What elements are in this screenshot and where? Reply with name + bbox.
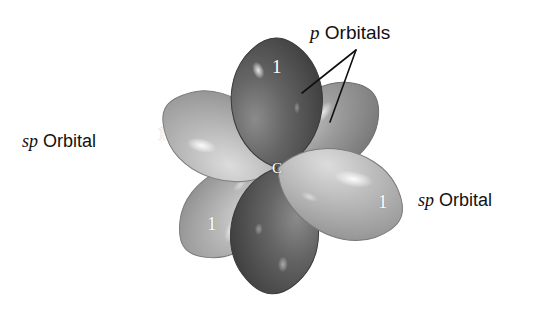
- sp-orbital-right-rest: Orbital: [434, 190, 492, 210]
- orbital-illustration: [0, 0, 539, 313]
- sp-orbital-right-label: sp Orbital: [418, 190, 492, 211]
- sp-orbital-left-rest: Orbital: [38, 131, 96, 151]
- sp-orbital-right-italic: sp: [418, 190, 434, 210]
- p-orbitals-rest: Orbitals: [320, 22, 391, 43]
- sp-orbital-left-italic: sp: [22, 131, 38, 151]
- center-atom-label: C: [272, 161, 282, 176]
- p-orbitals-label: p Orbitals: [310, 22, 390, 44]
- orbital-diagram-figure: C 1 1 1 1 p Orbitals sp Orbital sp Orbit…: [0, 0, 539, 313]
- sp-orbital-left-label: sp Orbital: [22, 131, 96, 152]
- p-orbitals-italic: p: [310, 22, 320, 43]
